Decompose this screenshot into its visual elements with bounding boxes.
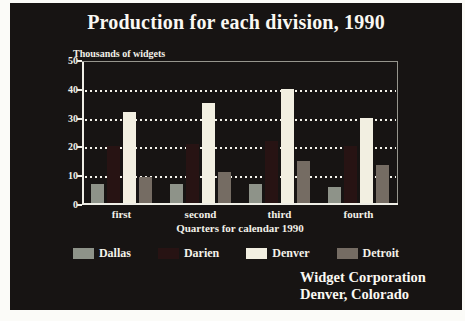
- bar-darien-second: [186, 144, 199, 204]
- bar-denver-second: [202, 103, 215, 204]
- legend-item-detroit: Detroit: [337, 246, 399, 261]
- y-axis-line: [82, 62, 84, 204]
- bar-detroit-second: [218, 172, 231, 204]
- y-tick-label-50: 50: [44, 55, 78, 66]
- x-axis-label: Quarters for calendar 1990: [82, 222, 398, 234]
- footer: Widget Corporation Denver, Colorado: [300, 269, 426, 304]
- presentation-slide: Production for each division, 1990 Thous…: [10, 3, 462, 310]
- legend-item-darien: Darien: [158, 246, 219, 261]
- bar-detroit-fourth: [376, 165, 389, 204]
- legend-swatch-detroit: [337, 248, 358, 259]
- y-tick-label-20: 20: [44, 141, 78, 152]
- bar-dallas-first: [91, 184, 104, 204]
- bar-dallas-third: [249, 184, 262, 204]
- bar-denver-third: [281, 89, 294, 204]
- legend-label-dallas: Dallas: [99, 246, 131, 261]
- bar-detroit-third: [297, 161, 310, 204]
- legend-item-dallas: Dallas: [73, 246, 131, 261]
- y-tick-label-0: 0: [44, 199, 78, 210]
- legend-item-denver: Denver: [246, 246, 309, 261]
- legend-label-denver: Denver: [272, 246, 309, 261]
- footer-company: Widget Corporation: [300, 269, 426, 286]
- legend-swatch-dallas: [73, 248, 94, 259]
- x-axis-line: [82, 203, 398, 205]
- bar-dallas-second: [170, 184, 183, 204]
- bar-detroit-first: [139, 177, 152, 204]
- category-label-first: first: [112, 208, 132, 220]
- legend: DallasDarienDenverDetroit: [10, 246, 462, 261]
- bar-darien-first: [107, 146, 120, 204]
- category-label-second: second: [185, 208, 217, 220]
- bar-denver-fourth: [360, 118, 373, 204]
- legend-label-detroit: Detroit: [363, 246, 399, 261]
- chart-title: Production for each division, 1990: [10, 11, 462, 34]
- legend-swatch-denver: [246, 248, 267, 259]
- category-label-fourth: fourth: [344, 208, 374, 220]
- category-label-third: third: [268, 208, 292, 220]
- legend-swatch-darien: [158, 248, 179, 259]
- y-tick-label-10: 10: [44, 170, 78, 181]
- bar-denver-first: [123, 112, 136, 204]
- plot-area: [82, 61, 398, 205]
- bar-darien-third: [265, 141, 278, 204]
- bar-darien-fourth: [344, 146, 357, 204]
- screenshot-canvas: Production for each division, 1990 Thous…: [0, 0, 465, 321]
- footer-location: Denver, Colorado: [300, 286, 426, 303]
- gridline-40: [85, 90, 396, 92]
- y-tick-label-40: 40: [44, 84, 78, 95]
- y-axis-label: Thousands of widgets: [73, 48, 165, 59]
- y-tick-label-30: 30: [44, 113, 78, 124]
- legend-label-darien: Darien: [184, 246, 219, 261]
- bar-dallas-fourth: [328, 187, 341, 204]
